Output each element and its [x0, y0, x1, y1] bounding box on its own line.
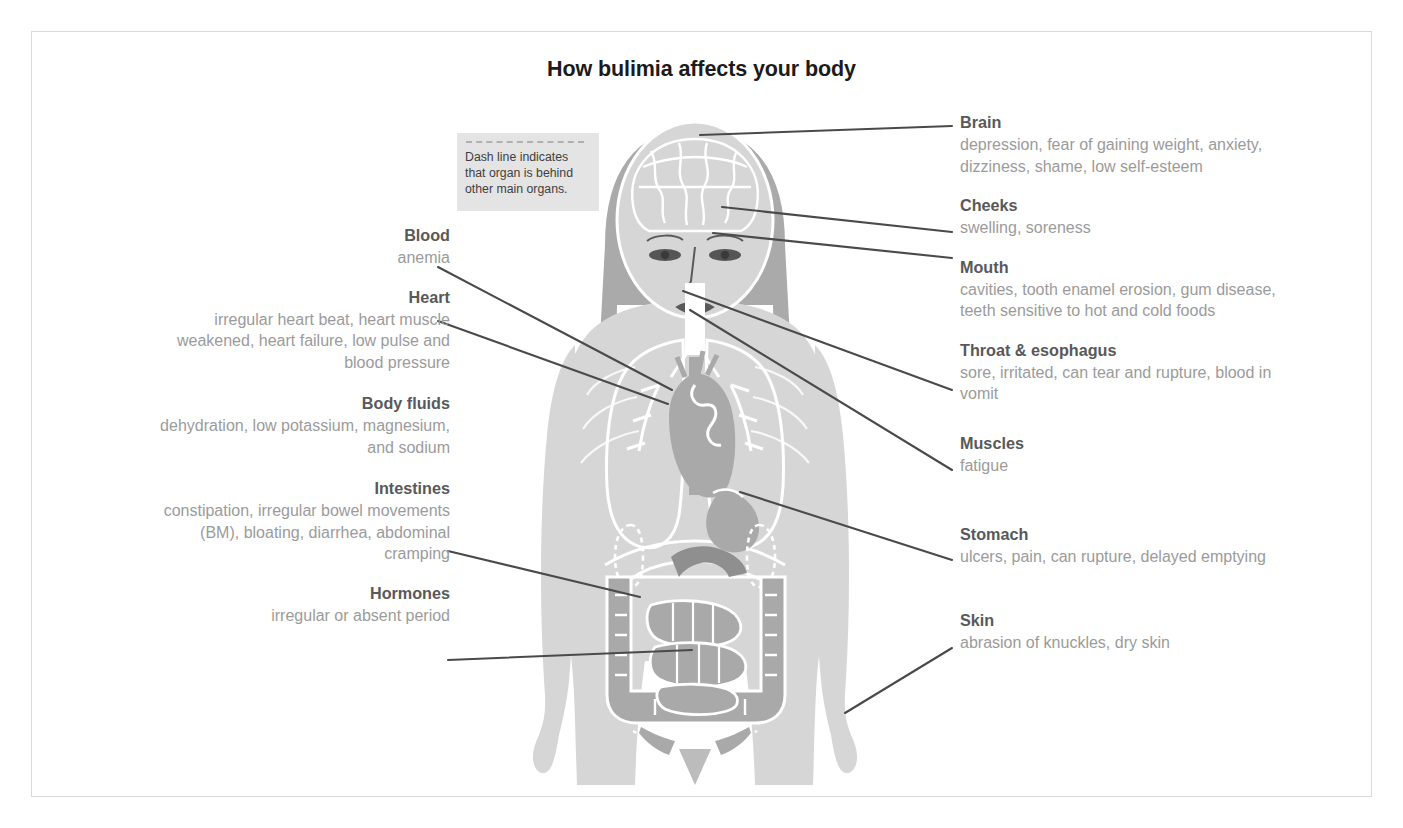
callout-heading: Hormones [150, 583, 450, 604]
left-arm-shape [533, 345, 577, 773]
left-pelvic-organ [639, 727, 675, 755]
dashed-line-sample [466, 141, 584, 143]
dash-line-legend: Dash line indicates that organ is behind… [457, 133, 599, 211]
callout-body: irregular or absent period [150, 605, 450, 627]
right-callout-column: Brain depression, fear of gaining weight… [960, 112, 1290, 667]
callout-body-fluids: Body fluids dehydration, low potassium, … [150, 393, 450, 458]
callout-hormones: Hormones irregular or absent period [150, 583, 450, 627]
infographic-poster: How bulimia affects your body [0, 0, 1403, 828]
callout-mouth: Mouth cavities, tooth enamel erosion, gu… [960, 257, 1290, 322]
callout-body: swelling, soreness [960, 217, 1290, 239]
callout-heading: Mouth [960, 257, 1290, 278]
callout-heading: Blood [150, 225, 450, 246]
small-intestine [647, 601, 746, 715]
callout-body: anemia [150, 247, 450, 269]
callout-throat-esophagus: Throat & esophagus sore, irritated, can … [960, 340, 1290, 405]
callout-brain: Brain depression, fear of gaining weight… [960, 112, 1290, 177]
callout-heading: Stomach [960, 524, 1290, 545]
callout-body: sore, irritated, can tear and rupture, b… [960, 362, 1290, 405]
callout-body: ulcers, pain, can rupture, delayed empty… [960, 546, 1290, 568]
trachea-shape [685, 283, 705, 355]
right-arm-shape [813, 345, 857, 773]
callout-heading: Muscles [960, 433, 1290, 454]
callout-body: dehydration, low potassium, magnesium, a… [150, 415, 450, 458]
callout-heading: Brain [960, 112, 1290, 133]
callout-body: cavities, tooth enamel erosion, gum dise… [960, 279, 1290, 322]
callout-body: constipation, irregular bowel movements … [150, 500, 450, 565]
callout-body: irregular heart beat, heart muscle weake… [150, 309, 450, 374]
uterus-shape [679, 749, 711, 785]
callout-blood: Blood anemia [150, 225, 450, 269]
callout-stomach: Stomach ulcers, pain, can rupture, delay… [960, 524, 1290, 568]
callout-intestines: Intestines constipation, irregular bowel… [150, 478, 450, 565]
callout-heading: Intestines [150, 478, 450, 499]
callout-body: fatigue [960, 455, 1290, 477]
callout-heading: Cheeks [960, 195, 1290, 216]
callout-heading: Skin [960, 610, 1290, 631]
callout-body: abrasion of knuckles, dry skin [960, 632, 1290, 654]
left-callout-column: Blood anemia Heart irregular heart beat,… [150, 225, 450, 640]
page-title: How bulimia affects your body [0, 57, 1403, 82]
legend-text: Dash line indicates that organ is behind… [465, 149, 591, 198]
callout-heading: Body fluids [150, 393, 450, 414]
callout-heading: Heart [150, 287, 450, 308]
callout-body: depression, fear of gaining weight, anxi… [960, 134, 1290, 177]
right-pelvic-organ [715, 727, 751, 755]
callout-skin: Skin abrasion of knuckles, dry skin [960, 610, 1290, 654]
callout-heart: Heart irregular heart beat, heart muscle… [150, 287, 450, 374]
callout-heading: Throat & esophagus [960, 340, 1290, 361]
callout-cheeks: Cheeks swelling, soreness [960, 195, 1290, 239]
callout-muscles: Muscles fatigue [960, 433, 1290, 477]
